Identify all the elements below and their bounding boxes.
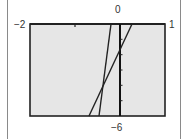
graph-plot xyxy=(0,0,185,139)
plot-area xyxy=(30,24,165,116)
